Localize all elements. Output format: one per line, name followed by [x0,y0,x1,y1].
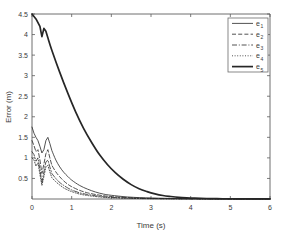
y-tick-label: 0.5 [18,175,28,182]
legend-label-e4[interactable]: e [256,52,260,59]
x-tick-label: 4 [189,204,193,211]
legend-label-e5[interactable]: e [256,63,260,70]
legend-subscript-e1: 1 [261,23,264,29]
figure-container: 0123456 0.511.522.533.544.5 Time (s) Err… [0,0,284,239]
legend-label-e3[interactable]: e [256,42,260,49]
y-tick-label: 3.5 [18,52,28,59]
y-tick-label: 4 [24,31,28,38]
legend[interactable]: e1e2e3e4e5 [228,18,268,73]
y-axis-title: Error (m) [4,91,13,123]
y-tick-label: 3 [24,72,28,79]
x-tick-label: 5 [228,204,232,211]
legend-label-e2[interactable]: e [256,31,260,38]
x-tick-label: 0 [30,204,34,211]
legend-subscript-e3: 3 [261,45,264,51]
legend-subscript-e5: 5 [261,67,264,73]
y-tick-label: 4.5 [18,11,28,18]
y-tick-label: 1 [24,154,28,161]
error-vs-time-line-chart: 0123456 0.511.522.533.544.5 Time (s) Err… [0,0,284,239]
legend-label-e1[interactable]: e [256,20,260,27]
y-tick-label: 2 [24,113,28,120]
legend-subscript-e2: 2 [261,34,264,40]
x-axis-title: Time (s) [136,221,165,230]
legend-subscript-e4: 4 [261,56,264,62]
y-tick-label: 2.5 [18,93,28,100]
y-tick-label: 1.5 [18,134,28,141]
x-tick-label: 2 [109,204,113,211]
x-tick-label: 1 [70,204,74,211]
x-tick-label: 3 [149,204,153,211]
x-tick-label: 6 [268,204,272,211]
